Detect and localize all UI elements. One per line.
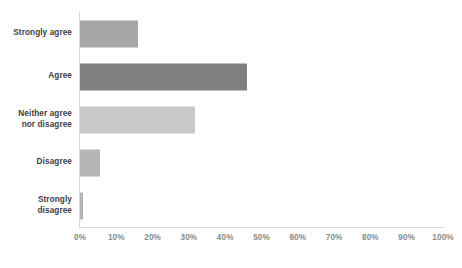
bar-rows: Strongly agreeAgreeNeither agree nor dis…: [0, 12, 462, 227]
bar: [80, 192, 83, 219]
bar-row: Disagree: [0, 141, 462, 184]
x-tick-label: 20%: [144, 233, 161, 242]
x-axis-line: [79, 227, 444, 228]
x-tick-label: 80%: [362, 233, 379, 242]
category-label: Agree: [0, 71, 72, 82]
category-label: Neither agree nor disagree: [0, 109, 72, 131]
bar-track: [80, 55, 443, 98]
x-tick-label: 30%: [181, 233, 198, 242]
bar-row: Agree: [0, 55, 462, 98]
bar-row: Strongly disagree: [0, 184, 462, 227]
bar-track: [80, 12, 443, 55]
category-label: Disagree: [0, 157, 72, 168]
x-tick-label: 40%: [217, 233, 234, 242]
bar-track: [80, 141, 443, 184]
bar-row: Neither agree nor disagree: [0, 98, 462, 141]
bar-track: [80, 184, 443, 227]
bar: [80, 149, 100, 176]
bar-track: [80, 98, 443, 141]
x-tick-label: 10%: [108, 233, 125, 242]
bar: [80, 63, 247, 90]
bar: [80, 106, 195, 133]
x-axis-tick-labels: 0%10%20%30%40%50%60%70%80%90%100%: [0, 233, 462, 247]
x-tick-label: 50%: [253, 233, 270, 242]
x-tick-label: 90%: [398, 233, 415, 242]
bar-row: Strongly agree: [0, 12, 462, 55]
category-label: Strongly disagree: [0, 195, 72, 217]
x-tick-label: 100%: [432, 233, 453, 242]
bar: [80, 20, 138, 47]
bar-chart: Strongly agreeAgreeNeither agree nor dis…: [0, 0, 462, 268]
x-tick-label: 0%: [74, 233, 86, 242]
x-tick-label: 70%: [326, 233, 343, 242]
category-label: Strongly agree: [0, 28, 72, 39]
x-tick-label: 60%: [289, 233, 306, 242]
